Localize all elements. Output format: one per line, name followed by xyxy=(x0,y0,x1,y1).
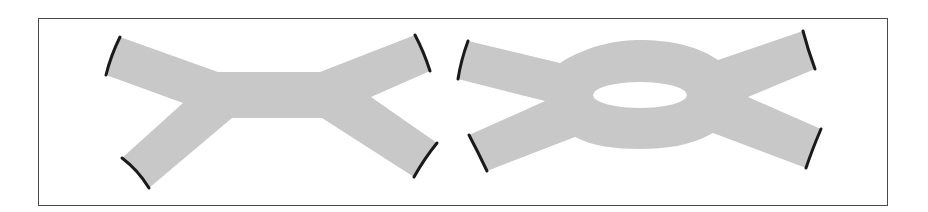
diagram-canvas xyxy=(0,0,928,212)
h-band-surface xyxy=(106,35,437,188)
diagram-figure xyxy=(0,0,928,212)
ring-band-surface xyxy=(458,31,821,171)
panel-right-ring-band xyxy=(458,31,821,171)
panel-left-h-band xyxy=(106,35,437,188)
